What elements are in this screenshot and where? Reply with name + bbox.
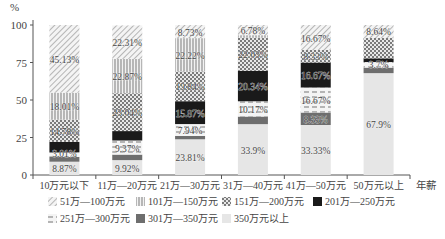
data-label: 6.78% xyxy=(241,26,266,36)
data-label: 8.64% xyxy=(366,27,391,37)
y-tick-label: 50 xyxy=(16,94,28,106)
data-labels: 8.87%3.01%14.78%18.01%45.13%9.92%9.37%23… xyxy=(50,26,391,174)
y-tick-label: 25 xyxy=(16,132,28,144)
data-label: 8.33% xyxy=(303,52,328,62)
y-tick-label: 100 xyxy=(11,19,28,31)
data-label: 16.67% xyxy=(301,96,330,106)
data-label: 8.33% xyxy=(303,115,328,125)
bar-segment xyxy=(238,117,268,125)
legend-label: 151万—200万元 xyxy=(234,196,304,207)
legend-swatch-dashed xyxy=(48,214,57,223)
data-label: 16.67% xyxy=(301,71,330,81)
legend-label: 301万—350万元 xyxy=(148,213,218,224)
legend-label: 51万—100万元 xyxy=(60,196,125,207)
data-label: 67.9% xyxy=(366,120,391,130)
data-label: 9.37% xyxy=(115,144,140,154)
x-tick-label: 31万—40万元 xyxy=(223,180,283,191)
data-label: 8.73% xyxy=(178,28,203,38)
stacked-bar-chart: %025507510010万元以下11万—20万元21万—30万元31万—40万… xyxy=(0,0,445,239)
x-tick-label: 50万元以上 xyxy=(354,180,404,191)
legend-label: 251万—300万元 xyxy=(60,213,130,224)
legend-swatch-darkgray xyxy=(136,214,145,223)
data-label: 22.87% xyxy=(113,72,142,82)
x-tick-label: 21万—30万元 xyxy=(160,180,220,191)
data-label: 33.9% xyxy=(241,146,266,156)
data-label: 19.84% xyxy=(175,82,204,92)
data-label: 22.31% xyxy=(113,38,142,48)
data-label: 45.13% xyxy=(50,55,79,65)
legend-label: 350万元以上 xyxy=(234,213,289,224)
legend-label: 201万—250万元 xyxy=(325,196,395,207)
data-label: 20.34% xyxy=(238,82,267,92)
data-label: 23.04% xyxy=(113,108,142,118)
data-label: 8.87% xyxy=(52,164,77,174)
legend-swatch-vertical xyxy=(136,197,145,206)
y-axis-label: % xyxy=(10,1,19,13)
data-label: 18.01% xyxy=(50,102,79,112)
data-label: 9.92% xyxy=(115,164,140,174)
legend-label: 101万—150万元 xyxy=(148,196,218,207)
bars xyxy=(49,25,393,175)
data-label: 16.67% xyxy=(301,34,330,44)
data-label: 23.81% xyxy=(175,153,204,163)
data-label: 15.87% xyxy=(175,109,204,119)
legend-swatch-light xyxy=(222,214,231,223)
data-label: 7.94% xyxy=(178,126,203,136)
legend-swatch-checker xyxy=(222,197,231,206)
bar-segment xyxy=(175,136,205,139)
data-label: 22.22% xyxy=(175,51,204,61)
data-label: 14.78% xyxy=(50,127,79,137)
legend-swatch-black xyxy=(313,197,322,206)
bar-segment xyxy=(364,38,394,58)
data-label: 22.03% xyxy=(238,50,267,60)
data-label: 33.33% xyxy=(301,146,330,156)
x-axis-label: 年薪 xyxy=(416,179,437,191)
bar-segment xyxy=(112,155,142,161)
x-tick-label: 41万—50万元 xyxy=(286,180,346,191)
x-tick-label: 10万元以下 xyxy=(39,180,89,191)
legend: 51万—100万元101万—150万元151万—200万元201万—250万元2… xyxy=(48,196,395,224)
data-label: 3.7% xyxy=(369,60,389,70)
y-tick-label: 0 xyxy=(22,169,28,181)
y-tick-label: 75 xyxy=(16,57,28,69)
data-label: 10.17% xyxy=(238,105,267,115)
data-label: 3.01% xyxy=(52,149,77,159)
x-tick-label: 11万—20万元 xyxy=(97,180,157,191)
bar-segment xyxy=(112,131,142,140)
legend-swatch-diagonal xyxy=(48,197,57,206)
